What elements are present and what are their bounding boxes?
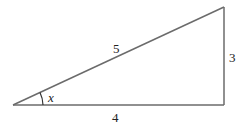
hypotenuse-line	[13, 7, 224, 105]
angle-arc	[40, 93, 43, 106]
triangle-diagram: 5 3 4 x	[0, 0, 243, 129]
vertical-leg-label: 3	[229, 50, 236, 65]
base-label: 4	[112, 110, 119, 125]
hypotenuse-label: 5	[113, 41, 120, 56]
angle-label: x	[47, 90, 54, 105]
